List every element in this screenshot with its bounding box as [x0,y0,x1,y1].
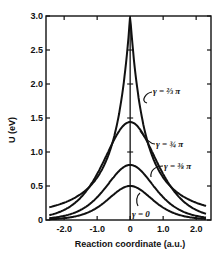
y-tick-label: 3.0 [30,11,43,21]
label-gamma-three-eighths-pi: γ = ⅜ π [164,161,192,171]
potential-energy-chart: 00.51.01.52.02.53.0 -2.0-1.001.02.0 U (e… [0,0,223,264]
x-tick-label: 1.0 [157,224,170,234]
x-tick-label: -2.0 [56,224,72,234]
y-tick-label: 0 [38,215,43,225]
y-axis: 00.51.01.52.02.53.0 [30,11,211,225]
curve-0 [49,18,206,208]
y-axis-title: U (eV) [7,117,17,143]
label-gamma-zero: γ = 0 [132,209,150,219]
x-tick-label: 0 [128,224,133,234]
leader-g0 [137,193,140,206]
label-gamma-two-thirds-pi: γ = ⅔ π [153,86,181,96]
x-tick-label: -1.0 [89,224,105,234]
x-tick-label: 2.0 [190,224,203,234]
curve-2 [49,165,206,218]
y-tick-label: 0.5 [30,181,43,191]
y-tick-label: 2.5 [30,45,43,55]
y-tick-label: 2.0 [30,79,43,89]
leader-g23 [144,92,152,103]
y-tick-label: 1.5 [30,113,43,123]
label-gamma-three-quarters-pi: γ = ¾ π [156,139,184,149]
y-tick-label: 1.0 [30,147,43,157]
x-axis-title: Reaction coordinate (a.u.) [75,239,186,249]
